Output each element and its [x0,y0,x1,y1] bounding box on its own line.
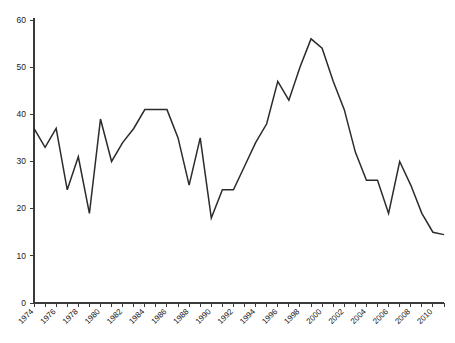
y-axis-tick-label: 10 [17,251,27,261]
x-axis-tick-label: 1978 [61,307,80,326]
x-axis-tick-label: 1984 [127,307,146,326]
x-axis-tick-label: 1988 [172,307,191,326]
x-axis-tick-label: 1994 [238,307,257,326]
y-axis-ticks: 0102030405060 [17,15,34,308]
data-series-line [34,39,444,235]
plot-area [34,39,444,235]
x-axis-tick-label: 1982 [105,307,124,326]
x-axis-tick-label: 2010 [415,307,434,326]
y-axis-tick-label: 0 [21,298,26,308]
x-axis-tick-label: 1986 [149,307,168,326]
x-axis-tick-label: 2004 [349,307,368,326]
y-axis-tick-label: 30 [17,156,27,166]
x-axis-tick-label: 2008 [393,307,412,326]
x-axis-tick-label: 1992 [216,307,235,326]
x-axis-tick-label: 1976 [39,307,58,326]
line-chart-figure: 0102030405060 19741976197819801982198419… [0,0,455,343]
x-axis-tick-label: 2006 [371,307,390,326]
y-axis-group: 0102030405060 [17,15,34,308]
y-axis-tick-label: 20 [17,203,27,213]
x-axis-tick-label: 1980 [83,307,102,326]
chart-canvas: 0102030405060 19741976197819801982198419… [0,0,455,343]
x-axis-tick-label: 1990 [194,307,213,326]
y-axis-tick-label: 60 [17,15,27,25]
y-axis-tick-label: 40 [17,109,27,119]
x-axis-tick-label: 1998 [282,307,301,326]
x-axis-tick-label: 1996 [260,307,279,326]
x-axis-tick-label: 2000 [305,307,324,326]
x-axis-group [34,303,444,307]
x-axis-tick-labels: 1974197619781980198219841986198819901992… [16,307,434,326]
x-axis-tick-label: 1974 [16,307,35,326]
x-axis-tick-label: 2002 [327,307,346,326]
y-axis-tick-label: 50 [17,62,27,72]
